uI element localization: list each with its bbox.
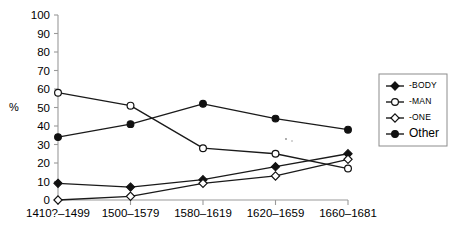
data-point-marker (54, 196, 62, 204)
y-tick-label: 10 (37, 176, 50, 188)
y-tick-label: 100 (31, 9, 50, 21)
data-point-marker (272, 150, 279, 157)
data-point-marker (271, 163, 279, 171)
y-tick-label: 20 (37, 157, 50, 169)
y-tick-label: 50 (37, 102, 50, 114)
y-tick-label: 0 (44, 194, 50, 206)
legend-label: -MAN (409, 96, 432, 106)
x-tick-label: 1580–1619 (174, 207, 232, 219)
scan-speck (291, 140, 292, 141)
x-tick-label: 1410?–1499 (26, 207, 90, 219)
data-point-marker (54, 179, 62, 187)
chart-container: % 0102030405060708090100 1410?–14991500–… (0, 0, 450, 230)
x-axis-ticks: 1410?–14991500–15791580–16191620–1659166… (26, 200, 377, 219)
data-point-marker (345, 126, 352, 133)
data-point-marker (345, 165, 352, 172)
y-tick-label: 40 (37, 120, 50, 132)
data-point-marker (271, 172, 279, 180)
y-tick-label: 70 (37, 65, 50, 77)
data-point-marker (127, 121, 134, 128)
y-tick-label: 80 (37, 46, 50, 58)
series-line (58, 104, 348, 137)
data-point-marker (272, 115, 279, 122)
line-chart: % 0102030405060708090100 1410?–14991500–… (0, 0, 450, 230)
data-point-marker (200, 145, 207, 152)
legend-marker-icon (392, 99, 399, 106)
x-tick-label: 1660–1681 (319, 207, 377, 219)
data-point-marker (127, 102, 134, 109)
data-point-marker (126, 192, 134, 200)
y-tick-label: 30 (37, 139, 50, 151)
y-tick-label: 90 (37, 28, 50, 40)
x-tick-label: 1620–1659 (247, 207, 305, 219)
legend-label: -BODY (409, 80, 437, 90)
data-point-marker (200, 100, 207, 107)
y-axis-title: % (9, 101, 19, 113)
chart-legend: -BODY-MAN-ONEOther (379, 74, 447, 146)
data-point-marker (55, 89, 62, 96)
y-tick-label: 60 (37, 83, 50, 95)
scan-speck (285, 138, 287, 140)
data-point-marker (55, 134, 62, 141)
legend-label: Other (409, 126, 439, 140)
x-tick-label: 1500–1579 (102, 207, 160, 219)
data-point-marker (126, 183, 134, 191)
series-layer (54, 89, 352, 204)
legend-marker-icon (392, 131, 399, 138)
legend-label: -ONE (409, 112, 431, 122)
data-point-marker (344, 155, 352, 163)
y-axis-ticks: 0102030405060708090100 (31, 9, 58, 206)
